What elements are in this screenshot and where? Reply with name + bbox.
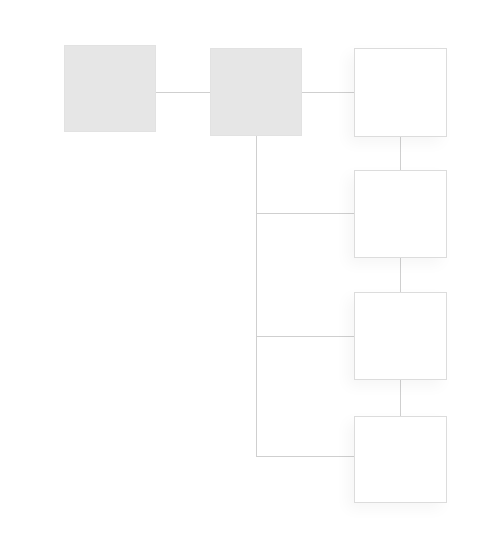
branch-to-d — [256, 213, 354, 214]
connector-d-e — [400, 258, 401, 292]
node-d — [354, 170, 447, 258]
branch-to-e — [256, 336, 354, 337]
node-b — [210, 48, 302, 136]
connector-a-b — [156, 92, 210, 93]
node-e — [354, 292, 447, 380]
branch-to-f — [256, 456, 354, 457]
trunk-b-down — [256, 136, 257, 457]
node-a — [64, 45, 156, 132]
connector-b-c — [302, 92, 354, 93]
connector-e-f — [400, 380, 401, 416]
node-f — [354, 416, 447, 503]
node-c — [354, 48, 447, 137]
connector-c-d — [400, 137, 401, 170]
tree-diagram — [0, 0, 483, 559]
